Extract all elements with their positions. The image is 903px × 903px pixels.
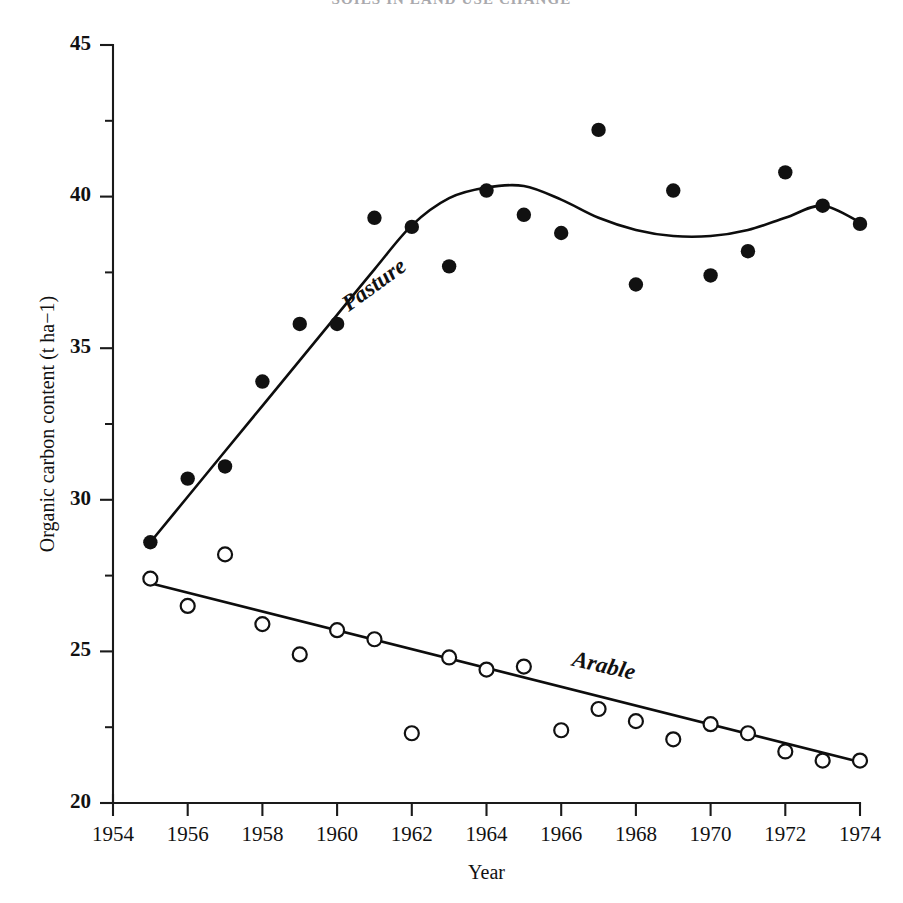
data-point: [778, 744, 792, 758]
data-point: [629, 714, 643, 728]
data-point: [853, 754, 867, 768]
y-axis-tick-labels: 202530354045: [70, 31, 91, 813]
data-point: [815, 198, 829, 212]
data-point: [816, 754, 830, 768]
data-point: [367, 211, 381, 225]
x-tick-label: 1974: [839, 822, 882, 846]
y-axis-title: Organic carbon content (t ha−1): [36, 296, 59, 552]
data-point: [330, 317, 344, 331]
data-point: [442, 259, 456, 273]
series-label-pasture: Pasture: [336, 253, 410, 317]
x-axis-tick-labels: 1954195619581960196219641966196819701972…: [92, 822, 882, 846]
x-tick-label: 1958: [241, 822, 283, 846]
x-tick-label: 1954: [92, 822, 135, 846]
data-point: [218, 459, 232, 473]
data-point: [741, 244, 755, 258]
data-point: [741, 726, 755, 740]
chart-page: SOILS IN LAND USE CHANGE 202530354045 19…: [0, 0, 903, 903]
data-point: [592, 702, 606, 716]
y-tick-label: 20: [70, 789, 91, 813]
chart-canvas: 202530354045 195419561958196019621964196…: [0, 0, 903, 903]
y-axis-minor-ticks: [105, 121, 113, 727]
data-point: [517, 208, 531, 222]
data-point: [666, 732, 680, 746]
data-point: [367, 632, 381, 646]
data-point: [255, 617, 269, 631]
x-tick-label: 1960: [316, 822, 358, 846]
y-tick-label: 35: [70, 334, 91, 358]
x-axis-ticks: [113, 794, 860, 816]
data-point: [778, 165, 792, 179]
data-point: [479, 183, 493, 197]
x-tick-label: 1956: [167, 822, 209, 846]
y-tick-label: 40: [70, 182, 91, 206]
x-tick-label: 1972: [764, 822, 806, 846]
data-point: [218, 547, 232, 561]
data-point: [591, 123, 605, 137]
y-tick-label: 25: [70, 637, 91, 661]
data-point: [143, 572, 157, 586]
data-point: [480, 663, 494, 677]
data-point: [442, 650, 456, 664]
y-tick-label: 30: [70, 486, 91, 510]
series-label-arable: Arable: [568, 646, 638, 685]
data-point: [293, 647, 307, 661]
data-point: [405, 220, 419, 234]
series-pasture-markers: [143, 123, 867, 550]
data-point: [554, 226, 568, 240]
data-point: [554, 723, 568, 737]
data-point: [181, 599, 195, 613]
y-tick-label: 45: [70, 31, 91, 55]
data-point: [181, 471, 195, 485]
fit-curve-pasture: [150, 185, 860, 542]
data-point: [255, 374, 269, 388]
x-tick-label: 1962: [391, 822, 433, 846]
data-point: [853, 217, 867, 231]
data-point: [405, 726, 419, 740]
x-tick-label: 1964: [466, 822, 509, 846]
series-fit-curves: [150, 185, 860, 762]
data-point: [703, 268, 717, 282]
x-axis-title: Year: [468, 861, 505, 883]
data-point: [629, 277, 643, 291]
data-point: [143, 535, 157, 549]
x-tick-label: 1966: [540, 822, 582, 846]
data-point: [666, 183, 680, 197]
data-point: [293, 317, 307, 331]
data-point: [517, 660, 531, 674]
x-tick-label: 1968: [615, 822, 657, 846]
series-arable-markers: [143, 547, 867, 767]
data-point: [330, 623, 344, 637]
data-point: [704, 717, 718, 731]
x-tick-label: 1970: [690, 822, 732, 846]
